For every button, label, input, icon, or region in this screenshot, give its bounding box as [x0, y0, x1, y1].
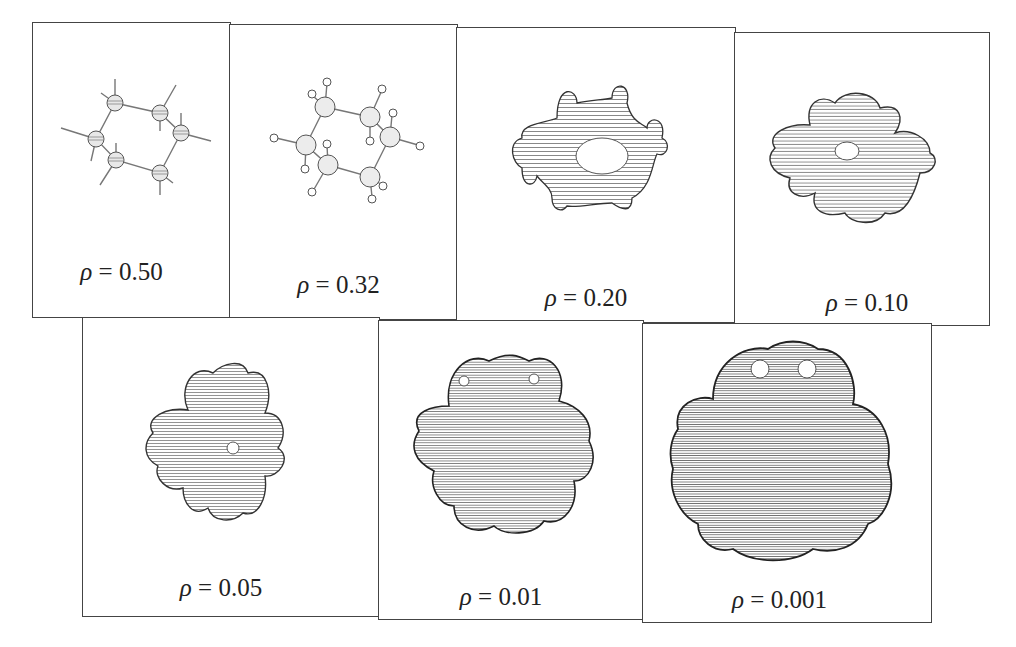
density-label: ρ = 0.05 [63, 574, 379, 602]
panel-rho-001: ρ = 0.01 [378, 320, 644, 620]
density-label: ρ = 0.32 [220, 271, 457, 299]
panel-rho-050: ρ = 0.50 [32, 22, 231, 318]
isosurface-merged-icon [83, 318, 381, 618]
density-label: ρ = 0.20 [437, 284, 735, 312]
isosurface-ring-icon [457, 28, 737, 324]
density-label: ρ = 0.001 [628, 586, 931, 614]
isosurface-connected-icon [735, 33, 991, 327]
density-label: ρ = 0.10 [745, 289, 989, 317]
isosurface-closed-icon [379, 321, 645, 621]
density-label: ρ = 0.01 [359, 583, 643, 611]
density-label: ρ = 0.50 [13, 258, 230, 286]
panel-rho-0001: ρ = 0.001 [642, 323, 932, 623]
panel-rho-010: ρ = 0.10 [734, 32, 990, 326]
panel-rho-020: ρ = 0.20 [456, 27, 736, 323]
isosurface-large-icon [643, 324, 933, 624]
panel-rho-005: ρ = 0.05 [82, 317, 380, 617]
panel-rho-032: ρ = 0.32 [229, 24, 458, 320]
